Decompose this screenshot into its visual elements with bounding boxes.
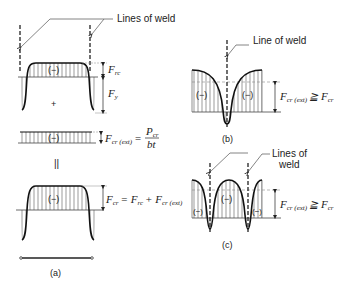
- f-y-label: Fy: [107, 87, 119, 101]
- weld-leader-a: Lines of weld: [21, 13, 175, 47]
- caption-c: (c): [222, 240, 233, 250]
- caption-a: (a): [50, 268, 61, 278]
- panel-a: Lines of weld (−) + Frc Fy (−): [16, 13, 183, 278]
- compression-sign-c-left: (−): [193, 207, 203, 216]
- compression-sign-b-left: (−): [196, 90, 207, 100]
- compression-sign-c-right: (−): [252, 207, 262, 216]
- residual-stress-plot: (−) +: [18, 63, 98, 110]
- f-cr-sum-formula: Fcr= Frc+ Fcr (ext): [105, 193, 183, 207]
- compression-sign-ext: (−): [48, 133, 59, 143]
- compression-sign-combined: (−): [48, 194, 59, 204]
- tension-sign-a: +: [51, 99, 56, 109]
- weld-label-c-line1: Lines of: [272, 148, 307, 159]
- equals-symbol: ||: [54, 158, 59, 169]
- relation-c: Fcr (ext)≧ Fcr: [279, 198, 334, 212]
- panel-b: Line of weld (−) (−) Fcr (ext)≧ Fcr (b): [192, 35, 334, 144]
- compression-sign-b-right: (−): [242, 90, 253, 100]
- compression-sign-a: (−): [48, 65, 59, 75]
- weld-label-b: Line of weld: [253, 35, 306, 46]
- panel-c: Lines of weld (−) (−) (−) Fcr (ext)≧ Fcr…: [192, 148, 334, 250]
- residual-stress-diagram: Lines of weld (−) + Frc Fy (−): [0, 0, 340, 288]
- weld-label-c-line2: weld: [278, 159, 300, 170]
- relation-b: Fcr (ext)≧ Fcr: [279, 90, 334, 104]
- p-cr: Pcr: [145, 125, 159, 139]
- f-cr-ext-formula: Fcr (ext)=: [104, 132, 142, 146]
- f-rc-label: Frc: [107, 63, 121, 77]
- weld-label-a: Lines of weld: [117, 13, 175, 24]
- bt-denominator: bt: [147, 138, 157, 150]
- external-stress-block: (−) Fcr (ext)= Pcr bt: [18, 125, 159, 150]
- caption-b: (b): [222, 134, 233, 144]
- plate-segment: [20, 257, 94, 260]
- combined-stress-plot: (−) Fcr= Frc+ Fcr (ext): [16, 186, 183, 240]
- compression-sign-c-mid: (−): [221, 194, 232, 204]
